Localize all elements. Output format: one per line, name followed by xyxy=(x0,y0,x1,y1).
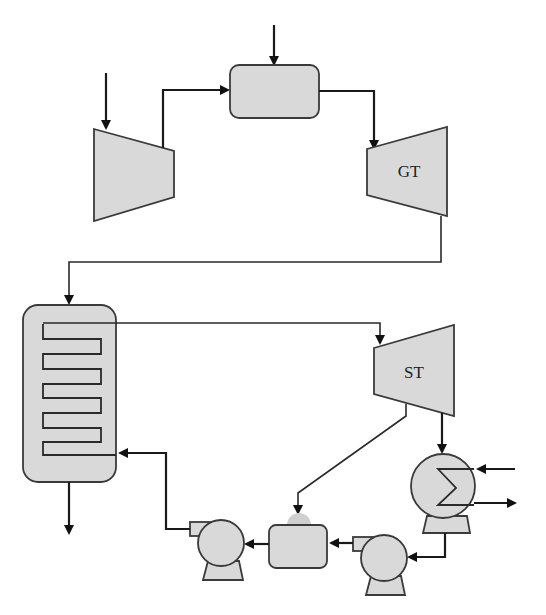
deaerator-dome xyxy=(287,513,311,525)
feedwater-line xyxy=(120,453,190,529)
gas-turbine-label: GT xyxy=(398,162,421,181)
condensate-pump-body xyxy=(361,535,407,581)
feedwater-pump-body xyxy=(198,520,244,566)
condensate-line xyxy=(409,533,445,557)
hot-gas-line xyxy=(319,91,374,148)
condenser-body xyxy=(411,454,475,518)
steam-turbine-label: ST xyxy=(404,363,424,382)
condenser xyxy=(411,454,475,533)
steam-turbine: ST xyxy=(374,325,454,416)
gas-turbine: GT xyxy=(367,127,447,216)
condensate-pump xyxy=(353,535,407,595)
extraction-steam-line xyxy=(298,404,406,513)
diagram-canvas: GT ST xyxy=(0,0,546,615)
feedwater-pump xyxy=(190,520,244,580)
hrsg xyxy=(23,305,116,482)
compressed-air-line xyxy=(163,90,228,148)
deaerator-vessel xyxy=(269,525,327,568)
deaerator xyxy=(269,513,327,568)
combustion-chamber xyxy=(230,65,319,118)
exhaust-gas-line xyxy=(69,216,441,303)
